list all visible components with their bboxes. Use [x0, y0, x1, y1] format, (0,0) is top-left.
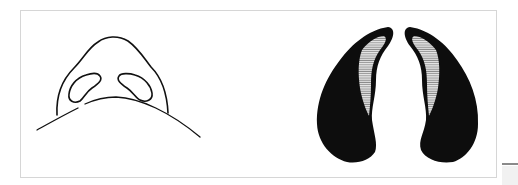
figure-illustration: [0, 0, 518, 185]
edge-rule-mark: [502, 163, 518, 165]
right-nostril-silhouette: [405, 27, 478, 163]
left-nostril: [69, 74, 101, 103]
nostril-silhouettes: [317, 27, 478, 163]
edge-shadow-block: [502, 166, 518, 185]
nose-contour: [57, 37, 168, 115]
nose-outline-drawing: [37, 37, 200, 137]
base-arc-right: [85, 97, 200, 137]
